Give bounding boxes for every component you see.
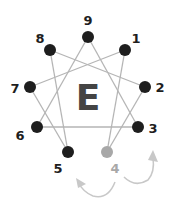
- label-2: 2: [155, 80, 164, 95]
- enneagram-diagram: E 9 1 2 3 4 5 6 7 8: [0, 0, 174, 208]
- label-6: 6: [15, 128, 24, 143]
- label-4: 4: [110, 161, 119, 176]
- dot-6: [31, 121, 43, 133]
- center-letter: E: [76, 77, 101, 118]
- arrow-4-to-3-icon: [124, 158, 153, 183]
- label-5: 5: [53, 161, 62, 176]
- dot-1: [119, 44, 131, 56]
- arrow-4-to-3-head-icon: [148, 150, 158, 162]
- label-9: 9: [83, 13, 92, 28]
- dot-3: [132, 121, 144, 133]
- dot-9: [82, 31, 94, 43]
- dot-5: [62, 146, 74, 158]
- label-7: 7: [10, 81, 19, 96]
- label-3: 3: [148, 121, 157, 136]
- label-1: 1: [131, 31, 140, 46]
- dot-8: [44, 44, 56, 56]
- dot-4-highlighted: [101, 146, 113, 158]
- dot-2: [139, 81, 151, 93]
- arrow-4-to-5-head-icon: [76, 178, 86, 188]
- label-8: 8: [35, 31, 44, 46]
- dot-7: [24, 81, 36, 93]
